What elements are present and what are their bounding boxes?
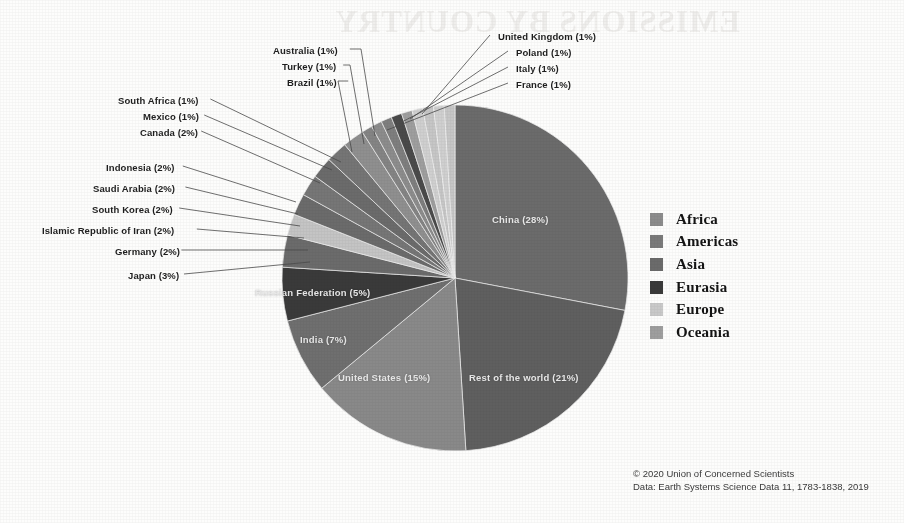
slice-label-mexico: Mexico (1%) <box>143 111 199 122</box>
slice-label-poland: Poland (1%) <box>516 47 571 58</box>
slice-label-australia: Australia (1%) <box>273 45 338 56</box>
slice-label-south-korea: South Korea (2%) <box>92 204 173 215</box>
legend-item-eurasia[interactable]: Eurasia <box>650 276 738 299</box>
slice-label-germany: Germany (2%) <box>115 246 180 257</box>
legend-swatch-eurasia <box>650 281 663 294</box>
slice-label-brazil: Brazil (1%) <box>287 77 337 88</box>
legend-item-europe[interactable]: Europe <box>650 298 738 321</box>
slice-label-united-states: United States (15%) <box>338 372 431 383</box>
legend-label-eurasia: Eurasia <box>676 279 727 296</box>
legend-label-asia: Asia <box>676 256 705 273</box>
legend-swatch-oceania <box>650 326 663 339</box>
leader-line <box>204 115 332 170</box>
slice-label-rest-of-the-world: Rest of the world (21%) <box>469 372 579 383</box>
slice-label-france: France (1%) <box>516 79 571 90</box>
credit-line-source: Data: Earth Systems Science Data 11, 178… <box>633 481 869 494</box>
slice-label-indonesia: Indonesia (2%) <box>106 162 174 173</box>
slice-label-turkey: Turkey (1%) <box>282 61 336 72</box>
slice-label-russian-federation: Russian Federation (5%) <box>255 287 370 298</box>
slice-label-islamic-republic-of-iran: Islamic Republic of Iran (2%) <box>42 225 174 236</box>
leader-line <box>350 49 375 136</box>
legend-swatch-africa <box>650 213 663 226</box>
legend-label-africa: Africa <box>676 211 718 228</box>
legend-item-americas[interactable]: Americas <box>650 231 738 254</box>
legend-swatch-americas <box>650 235 663 248</box>
credit-line-copyright: © 2020 Union of Concerned Scientists <box>633 468 869 481</box>
legend-item-asia[interactable]: Asia <box>650 253 738 276</box>
leader-line <box>338 81 352 152</box>
legend-label-americas: Americas <box>676 233 738 250</box>
legend-swatch-asia <box>650 258 663 271</box>
slice-label-canada: Canada (2%) <box>140 127 198 138</box>
leader-line <box>343 65 364 144</box>
legend: AfricaAmericasAsiaEurasiaEuropeOceania <box>650 208 738 344</box>
legend-label-oceania: Oceania <box>676 324 730 341</box>
chart-canvas: EMISSIONS BY COUNTRY each country Japan … <box>0 0 904 523</box>
legend-label-europe: Europe <box>676 301 724 318</box>
slice-label-india: India (7%) <box>300 334 347 345</box>
slice-label-japan: Japan (3%) <box>128 270 179 281</box>
slice-label-china: China (28%) <box>492 214 549 225</box>
pie-chart <box>0 0 904 523</box>
legend-item-africa[interactable]: Africa <box>650 208 738 231</box>
pie-slice[interactable] <box>455 105 628 310</box>
leader-line <box>183 166 296 202</box>
leader-line <box>179 208 300 226</box>
leader-line <box>422 35 490 114</box>
leader-line <box>210 99 341 162</box>
slice-label-italy: Italy (1%) <box>516 63 559 74</box>
leader-line <box>185 187 298 214</box>
slice-label-united-kingdom: United Kingdom (1%) <box>498 31 596 42</box>
slice-label-saudi-arabia: Saudi Arabia (2%) <box>93 183 175 194</box>
credit-block: © 2020 Union of Concerned Scientists Dat… <box>633 468 869 493</box>
legend-item-oceania[interactable]: Oceania <box>650 321 738 344</box>
legend-swatch-europe <box>650 303 663 316</box>
slice-label-south-africa: South Africa (1%) <box>118 95 199 106</box>
